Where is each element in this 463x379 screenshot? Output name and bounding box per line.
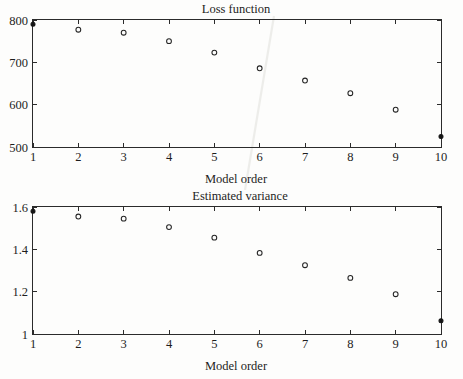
y-tick-label: 1.2 bbox=[12, 285, 28, 299]
x-tick-label: 10 bbox=[435, 150, 448, 164]
y-tick-label: 600 bbox=[9, 98, 28, 112]
x-tick-label: 2 bbox=[75, 150, 81, 164]
variance-y-tick-labels: 11.21.41.6 bbox=[12, 201, 28, 342]
data-point-marker bbox=[31, 22, 35, 26]
x-tick-label: 9 bbox=[393, 150, 399, 164]
x-tick-label: 5 bbox=[211, 337, 217, 351]
x-tick-label: 10 bbox=[435, 337, 448, 351]
variance-axes-box bbox=[33, 207, 442, 335]
x-tick-label: 3 bbox=[121, 150, 127, 164]
data-point-marker bbox=[393, 107, 398, 112]
data-point-marker bbox=[212, 50, 217, 55]
x-tick-label: 9 bbox=[393, 337, 399, 351]
loss-data-points bbox=[31, 22, 443, 138]
data-point-marker bbox=[348, 276, 353, 281]
x-tick-label: 6 bbox=[257, 337, 263, 351]
data-point-marker bbox=[76, 27, 81, 32]
y-tick-label: 1.6 bbox=[12, 201, 28, 215]
chart-panel-variance: 12345678910 11.21.41.6 Estimated varianc… bbox=[0, 189, 463, 379]
data-point-marker bbox=[121, 216, 126, 221]
data-point-marker bbox=[31, 209, 35, 213]
y-tick-label: 1 bbox=[22, 328, 28, 342]
y-tick-label: 1.4 bbox=[12, 243, 28, 257]
variance-x-axis-label: Model order bbox=[205, 359, 268, 373]
y-tick-label: 700 bbox=[9, 56, 28, 70]
x-tick-label: 4 bbox=[166, 150, 173, 164]
variance-chart-title: Estimated variance bbox=[192, 189, 288, 203]
data-point-marker bbox=[167, 39, 172, 44]
figure-container: 12345678910 500600700800 Loss function M… bbox=[0, 0, 463, 379]
data-point-marker bbox=[393, 292, 398, 297]
x-tick-label: 3 bbox=[121, 337, 127, 351]
x-tick-label: 4 bbox=[166, 337, 173, 351]
data-point-marker bbox=[439, 134, 443, 138]
variance-tick-marks bbox=[33, 207, 441, 334]
data-point-marker bbox=[167, 225, 172, 230]
x-tick-label: 2 bbox=[75, 337, 81, 351]
x-tick-label: 1 bbox=[30, 337, 36, 351]
data-point-marker bbox=[303, 263, 308, 268]
data-point-marker bbox=[212, 235, 217, 240]
data-point-marker bbox=[348, 91, 353, 96]
chart-panel-loss: 12345678910 500600700800 Loss function M… bbox=[0, 0, 463, 190]
x-tick-label: 5 bbox=[211, 150, 217, 164]
data-point-marker bbox=[303, 78, 308, 83]
loss-function-plot: 12345678910 500600700800 Loss function M… bbox=[0, 0, 463, 190]
data-point-marker bbox=[257, 66, 262, 71]
loss-tick-marks bbox=[33, 20, 441, 147]
x-tick-label: 7 bbox=[302, 150, 308, 164]
variance-x-tick-labels: 12345678910 bbox=[30, 337, 447, 351]
data-point-marker bbox=[439, 319, 443, 323]
loss-x-axis-label: Model order bbox=[205, 172, 268, 186]
x-tick-label: 6 bbox=[257, 150, 263, 164]
y-tick-label: 800 bbox=[9, 14, 28, 28]
estimated-variance-plot: 12345678910 11.21.41.6 Estimated varianc… bbox=[0, 189, 463, 379]
data-point-marker bbox=[121, 30, 126, 35]
data-point-marker bbox=[76, 214, 81, 219]
loss-axes-box bbox=[33, 20, 442, 148]
x-tick-label: 8 bbox=[347, 337, 353, 351]
variance-data-points bbox=[31, 209, 443, 322]
data-point-marker bbox=[257, 251, 262, 256]
loss-chart-title: Loss function bbox=[202, 2, 271, 16]
x-tick-label: 7 bbox=[302, 337, 308, 351]
loss-x-tick-labels: 12345678910 bbox=[30, 150, 447, 164]
y-tick-label: 500 bbox=[9, 141, 28, 155]
loss-y-tick-labels: 500600700800 bbox=[9, 14, 28, 155]
x-tick-label: 8 bbox=[347, 150, 353, 164]
x-tick-label: 1 bbox=[30, 150, 36, 164]
